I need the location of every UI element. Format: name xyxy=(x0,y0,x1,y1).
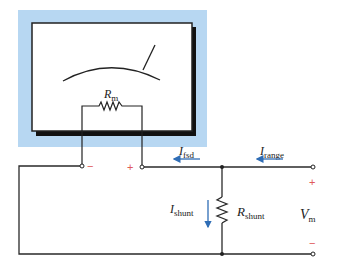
output-plus-sign: + xyxy=(309,176,315,188)
circuit-diagram: Rm − + + − Ifsd Irange Ishunt Rshunt Vm xyxy=(0,0,339,270)
circuit-wires xyxy=(19,166,311,254)
junction-top xyxy=(220,165,224,169)
meter-terminal-plus[interactable] xyxy=(140,165,144,169)
output-minus-sign: − xyxy=(309,237,315,249)
ishunt-label: Ishunt xyxy=(169,202,194,218)
junction-bottom xyxy=(220,252,224,256)
meter-minus-sign: − xyxy=(87,160,93,172)
rshunt-label: Rshunt xyxy=(236,204,265,221)
meter-terminal-minus[interactable] xyxy=(80,164,84,168)
output-terminal-minus[interactable] xyxy=(311,252,315,256)
meter-plus-sign: + xyxy=(127,161,133,173)
output-terminal-plus[interactable] xyxy=(311,165,315,169)
vm-label: Vm xyxy=(300,207,316,224)
meter-face xyxy=(32,23,192,131)
irange-label: Irange xyxy=(259,144,284,160)
